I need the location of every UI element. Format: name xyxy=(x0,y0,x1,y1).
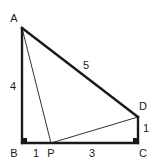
segment-PD xyxy=(51,117,138,143)
right-angle-marker-B xyxy=(21,138,27,144)
segment-AP xyxy=(22,28,51,143)
measure-label-DC: 1 xyxy=(143,123,149,134)
geometry-figure: ABPCD45131 xyxy=(0,0,157,165)
right-angle-marker-C xyxy=(133,138,139,144)
vertex-label-B: B xyxy=(10,148,17,159)
edge-group-thin xyxy=(22,28,138,143)
measure-label-AB: 4 xyxy=(10,81,16,92)
figure-canvas xyxy=(0,0,157,165)
vertex-label-A: A xyxy=(10,13,17,24)
measure-label-AD: 5 xyxy=(83,60,89,71)
vertex-label-P: P xyxy=(47,148,54,159)
measure-label-PC: 3 xyxy=(89,148,95,159)
edge-group-thick xyxy=(22,28,138,143)
vertex-label-D: D xyxy=(139,101,147,112)
vertex-label-C: C xyxy=(139,148,147,159)
measure-label-BP: 1 xyxy=(33,148,39,159)
segment-AD xyxy=(22,28,138,117)
